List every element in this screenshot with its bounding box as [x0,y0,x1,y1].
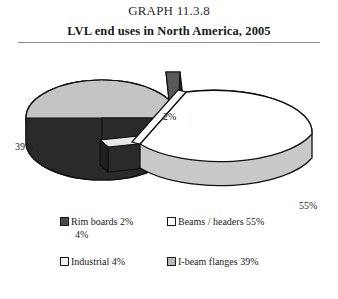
pie-chart-svg [0,52,338,207]
chart-title: LVL end uses in North America, 2005 [0,24,338,39]
legend-row: Rim boards 2% Beams / headers 55% [60,214,322,228]
legend-label-rim-boards: Rim boards 2% [71,216,133,227]
legend-item-i-beam-flanges: I-beam flanges 39% [167,254,317,268]
legend-label-beams-headers: Beams / headers 55% [178,216,264,227]
data-label-rim-boards: 2% [163,111,176,122]
pie-chart: 55% 39% 4% 2% [0,52,338,207]
title-divider [18,42,320,43]
legend-item-rim-boards: Rim boards 2% [60,214,167,228]
legend-item-industrial: Industrial 4% [60,254,167,268]
legend-swatch-industrial [60,257,69,266]
legend-swatch-rim-boards [60,217,69,226]
legend-item-beams-headers: Beams / headers 55% [167,214,317,228]
legend-label-i-beam-flanges: I-beam flanges 39% [178,256,259,267]
chart-figure: GRAPH 11.3.8 LVL end uses in North Ameri… [0,0,338,299]
data-label-beams: 55% [299,200,317,211]
legend-label-industrial: Industrial 4% [71,256,125,267]
pie-slice-i-beam-flanges-cap [26,80,178,118]
legend-swatch-i-beam-flanges [167,257,176,266]
legend-row: Industrial 4% I-beam flanges 39% [60,254,322,268]
data-label-i-beam-flanges: 39% [15,141,33,152]
legend-swatch-beams-headers [167,217,176,226]
chart-legend: Rim boards 2% Beams / headers 55% Indust… [60,214,322,286]
graph-number: GRAPH 11.3.8 [0,3,338,19]
